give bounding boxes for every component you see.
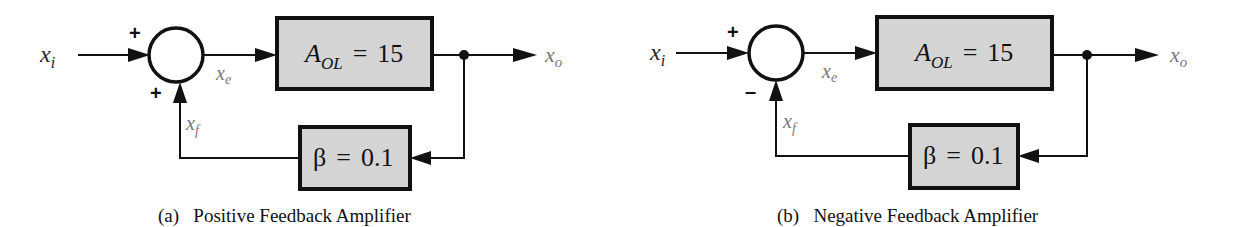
diagram-a-positive-feedback: xi + xe AOL=15 xo β=0.1 + xf (a) Positiv… [39,18,563,227]
feedback-sign-b: – [745,80,756,102]
input-sign-b: + [727,21,739,43]
forward-gain-text-a: AOL=15 [303,39,403,73]
error-arrow-b [855,46,877,60]
error-label-a: xe [215,62,231,87]
feedback-arrow-into-beta-b [1018,149,1039,163]
feedback-arrow-into-beta-a [410,151,431,165]
feedback-label-b: xf [782,110,798,136]
feedback-arrow-into-sum-b [769,80,783,101]
output-arrow-a [513,48,537,62]
feedback-amplifier-diagrams: xi + xe AOL=15 xo β=0.1 + xf (a) Positiv… [0,0,1235,227]
feedback-arrow-into-sum-a [173,82,187,103]
output-label-b: xo [1169,42,1188,70]
input-arrow-a [128,48,150,62]
forward-gain-text-b: AOL=15 [913,38,1013,72]
input-label-b: xi [649,39,665,69]
input-sign-a: + [129,22,141,44]
input-arrow-b [727,46,749,60]
output-arrow-b [1135,48,1159,62]
output-label-a: xo [544,42,563,70]
input-label-a: xi [39,41,55,71]
error-label-b: xe [821,60,837,85]
summing-junction-a [149,28,203,82]
feedback-return-wire-b [776,88,910,156]
feedback-label-a: xf [185,112,201,138]
error-arrow-a [255,48,277,62]
caption-a: (a) Positive Feedback Amplifier [158,205,411,227]
summing-junction-b [749,26,803,80]
caption-b: (b) Negative Feedback Amplifier [777,205,1039,227]
feedback-sign-a: + [150,82,162,104]
diagram-b-negative-feedback: xi + xe AOL=15 xo β=0.1 – xf (b) Negativ… [649,17,1188,227]
